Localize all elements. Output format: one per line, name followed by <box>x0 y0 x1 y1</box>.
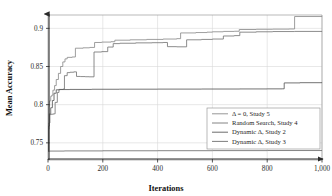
x-tick-label: 1,000 <box>314 165 331 173</box>
legend-label-4: Dynamic Δ, Study 3 <box>232 138 286 145</box>
legend-label-3: Dynamic Δ, Study 2 <box>232 128 286 135</box>
x-tick-label: 600 <box>207 165 218 173</box>
y-tick-label: 0.75 <box>30 139 43 147</box>
x-tick-label: 800 <box>262 165 273 173</box>
line-chart: 0.750.80.850.9 02004006008001,000 Iterat… <box>0 0 332 196</box>
legend-label-2: Random Search, Study 4 <box>232 119 298 126</box>
chart-legend[interactable]: Δ = 0, Study 5Random Search, Study 4Dyna… <box>207 108 320 149</box>
y-tick-label: 0.85 <box>30 63 43 71</box>
x-tick-label: 0 <box>46 165 50 173</box>
y-axis-title: Mean Accuracy <box>5 59 14 116</box>
y-tick-label: 0.9 <box>34 25 43 33</box>
legend-label-1: Δ = 0, Study 5 <box>232 110 271 117</box>
y-tick-label: 0.8 <box>34 101 43 109</box>
x-tick-label: 200 <box>97 165 108 173</box>
chart-figure: 0.750.80.850.9 02004006008001,000 Iterat… <box>0 0 332 196</box>
x-axis-title: Iterations <box>149 184 185 193</box>
x-tick-label: 400 <box>152 165 163 173</box>
